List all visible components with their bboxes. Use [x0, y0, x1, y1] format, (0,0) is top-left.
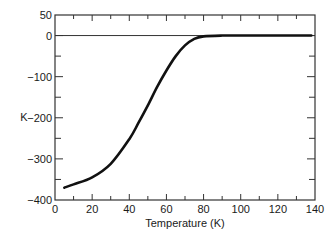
- y-tick-label: −200: [27, 112, 52, 124]
- y-tick-label: 50: [40, 9, 52, 21]
- x-axis-title: Temperature (K): [145, 217, 224, 229]
- chart: 500−100−200−300−400020406080100120140 Te…: [0, 0, 332, 239]
- x-tick-label: 60: [160, 203, 172, 215]
- axis-ticks: [55, 15, 315, 200]
- x-tick-label: 40: [123, 203, 135, 215]
- x-tick-label: 20: [86, 203, 98, 215]
- x-tick-label: 0: [52, 203, 58, 215]
- y-tick-label: −400: [27, 194, 52, 206]
- x-tick-label: 100: [232, 203, 250, 215]
- x-tick-label: 80: [197, 203, 209, 215]
- plot-frame: [55, 15, 315, 200]
- data-series-line: [64, 35, 311, 187]
- y-tick-label: −300: [27, 153, 52, 165]
- y-tick-label: −100: [27, 71, 52, 83]
- y-tick-label: 0: [46, 30, 52, 42]
- y-axis-title: K: [20, 111, 28, 123]
- x-tick-label: 120: [269, 203, 287, 215]
- x-tick-label: 140: [306, 203, 324, 215]
